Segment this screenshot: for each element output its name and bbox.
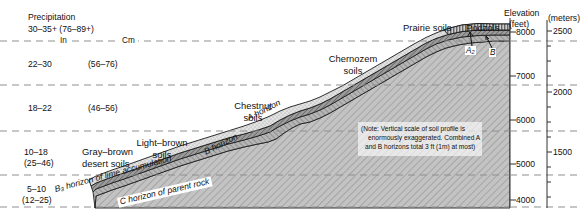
precip-band-3-cm: (25–46): [24, 159, 54, 169]
soil-profile-diagram: Precipitation 30–35+ (76–89+) In Cm 22–3…: [0, 0, 582, 216]
precip-band-2-cm: (46–56): [88, 104, 118, 114]
note-line3: and B horizons total 3 ft (1m) at most): [365, 143, 475, 152]
feet-tick-4000: 4000: [516, 196, 535, 206]
feet-axis: [510, 18, 582, 208]
feet-tick-7000: 7000: [516, 72, 535, 82]
a2-callout-label: A₂: [465, 46, 476, 55]
precipitation-heading-line2: 30–35+ (76–89+): [28, 25, 94, 35]
unit-header-cm: Cm: [119, 36, 138, 45]
precip-band-2-inches: 18–22: [28, 104, 52, 114]
soil-zone-chernozem-line1: Chernozem: [306, 54, 400, 65]
elevation-label-line1: Elevation: [504, 9, 539, 19]
soil-zone-prairie: Prairie soils: [403, 23, 451, 34]
precip-band-4-inches: 5–10: [27, 185, 46, 195]
feet-tick-8000: 8000: [516, 28, 535, 38]
feet-tick-5000: 5000: [516, 160, 535, 170]
precip-band-1-cm: (56–76): [88, 60, 118, 70]
b-callout-label: B: [489, 48, 496, 57]
meters-tick-2000: 2000: [553, 88, 572, 98]
meters-tick-1500: 1500: [553, 148, 572, 158]
precipitation-heading-line1: Precipitation: [28, 13, 75, 23]
soil-zone-chernozem-line2: soils: [306, 66, 400, 77]
precip-band-1-inches: 22–30: [28, 60, 52, 70]
meters-tick-2500: 2500: [553, 27, 572, 37]
meters-axis: [547, 20, 552, 208]
soil-zone-podzols: Podzols: [466, 23, 499, 34]
precip-band-3-inches: 10–18: [24, 148, 48, 158]
soil-zone-light-brown-line1: Light–brown: [114, 138, 210, 149]
meters-label: (meters): [548, 14, 580, 24]
precip-band-4-cm: (12–25): [22, 196, 52, 206]
note-line1: (Note: Vertical scale of soil profile is: [361, 125, 465, 134]
unit-header-inches: In: [57, 36, 70, 45]
note-line2: enormously exaggerated. Combined A: [368, 134, 480, 143]
feet-tick-6000: 6000: [516, 116, 535, 126]
